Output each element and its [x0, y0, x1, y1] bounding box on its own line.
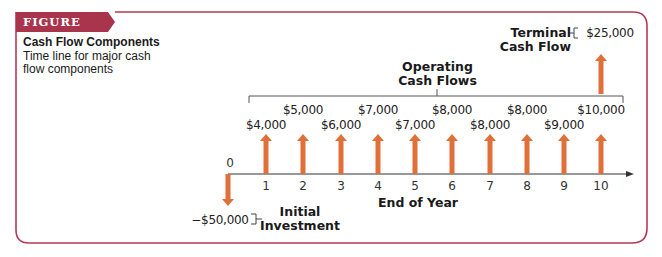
initial-investment-arrow [222, 174, 234, 206]
operating-cash-flow-arrow [260, 134, 272, 174]
cash-flow-value: $8,000 [507, 103, 547, 117]
cash-flow-value: $10,000 [577, 103, 625, 117]
cash-flow-value: $9,000 [544, 118, 584, 132]
operating-cash-flow-arrow [446, 134, 458, 174]
terminal-cash-flow-arrow [595, 54, 607, 94]
operating-cash-flow-arrow [595, 134, 607, 174]
cash-flow-value: $7,000 [358, 103, 398, 117]
year-tick-label: 1 [262, 179, 270, 193]
year-tick-label: 8 [523, 179, 531, 193]
cash-flow-value: $6,000 [321, 118, 361, 132]
year-tick-label: 5 [411, 179, 419, 193]
operating-line-1: Operating [380, 60, 495, 74]
operating-cash-flow-arrow [335, 134, 347, 174]
terminal-line-2: Cash Flow [495, 40, 571, 54]
operating-cash-flow-arrow [372, 134, 384, 174]
year-tick-label: 4 [374, 179, 382, 193]
terminal-line-1: Terminal [495, 26, 571, 40]
terminal-cash-flow-label: Terminal Cash Flow [495, 26, 571, 54]
year-tick-label: 10 [593, 179, 608, 193]
operating-cash-flow-arrow [297, 134, 309, 174]
cash-flow-value: $8,000 [432, 103, 472, 117]
operating-bracket [249, 89, 623, 103]
year-tick-label: 7 [486, 179, 494, 193]
cash-flow-value: $8,000 [470, 118, 510, 132]
initial-line-2: Investment [258, 219, 342, 233]
initial-investment-value: −$50,000 [191, 213, 248, 227]
operating-cash-flow-arrow [558, 134, 570, 174]
operating-cash-flows-label: Operating Cash Flows [380, 60, 495, 88]
year-tick-label: 6 [448, 179, 456, 193]
year-tick-label: 3 [337, 179, 345, 193]
cash-flow-value: $7,000 [395, 118, 435, 132]
operating-line-2: Cash Flows [380, 74, 495, 88]
operating-cash-flow-arrow [409, 134, 421, 174]
year-tick-label: 9 [560, 179, 568, 193]
year-zero-label: 0 [226, 156, 234, 170]
operating-cash-flow-arrow [484, 134, 496, 174]
initial-investment-label: Initial Investment [258, 205, 342, 233]
operating-cash-flow-arrow [521, 134, 533, 174]
year-tick-label: 2 [299, 179, 307, 193]
initial-line-1: Initial [258, 205, 342, 219]
terminal-value: $25,000 [586, 26, 634, 40]
axis-label: End of Year [368, 196, 468, 210]
cash-flow-value: $4,000 [246, 118, 286, 132]
cash-flow-value: $5,000 [283, 103, 323, 117]
time-axis [228, 171, 634, 177]
